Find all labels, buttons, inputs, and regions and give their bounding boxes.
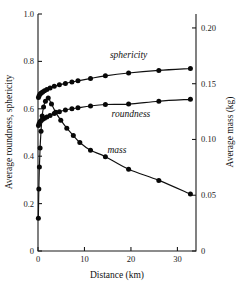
data-point-mass xyxy=(71,133,76,138)
chart-figure: 00.20.40.60.81.0 00.050.100.150.20 01020… xyxy=(0,0,243,285)
x-tick-label: 0 xyxy=(36,254,40,264)
x-axis-ticks: 0102030 xyxy=(36,247,182,264)
y-tick-label-left: 0.2 xyxy=(23,199,34,209)
data-point-mass xyxy=(49,102,54,107)
data-point-roundness xyxy=(103,102,108,107)
data-point-roundness xyxy=(156,99,161,104)
data-point-roundness xyxy=(63,107,68,112)
x-tick-label: 10 xyxy=(80,254,89,264)
data-point-sphericity xyxy=(103,73,108,78)
data-point-roundness xyxy=(75,105,80,110)
x-tick-label: 30 xyxy=(173,254,182,264)
data-point-sphericity xyxy=(156,68,161,73)
data-point-mass xyxy=(36,186,41,191)
data-point-mass xyxy=(36,216,41,221)
y-tick-label-right: 0.10 xyxy=(201,134,216,144)
data-point-sphericity xyxy=(63,81,68,86)
data-series-layer xyxy=(36,66,193,221)
y-tick-label-left: 0.8 xyxy=(23,56,34,66)
data-point-sphericity xyxy=(69,80,74,85)
data-point-sphericity xyxy=(126,71,131,76)
data-point-mass xyxy=(188,192,193,197)
y-tick-label-right: 0 xyxy=(201,246,205,256)
chart-plot-area: 00.20.40.60.81.0 00.050.100.150.20 01020… xyxy=(0,0,243,285)
y-tick-label-left: 0.4 xyxy=(23,151,34,161)
data-point-mass xyxy=(64,126,69,131)
data-point-roundness xyxy=(126,102,131,107)
x-tick-label: 20 xyxy=(127,254,136,264)
data-point-sphericity xyxy=(188,66,193,71)
data-point-sphericity xyxy=(88,76,93,81)
y-axis-title-left: Average roundness, sphericity xyxy=(4,74,14,189)
y-tick-label-right: 0.15 xyxy=(201,79,216,89)
data-point-mass xyxy=(39,129,44,134)
x-axis-title: Distance (km) xyxy=(90,270,144,281)
data-point-mass xyxy=(41,104,46,109)
data-point-mass xyxy=(77,140,82,145)
y-tick-label-right: 0.20 xyxy=(201,23,216,33)
series-label-roundness: roundness xyxy=(112,109,151,119)
data-point-sphericity xyxy=(57,82,62,87)
data-point-roundness xyxy=(69,106,74,111)
y-axis-title-right: Average mass (kg) xyxy=(225,96,236,167)
data-point-mass xyxy=(156,178,161,183)
data-point-mass xyxy=(40,113,45,118)
data-point-mass xyxy=(38,145,43,150)
data-point-sphericity xyxy=(75,78,80,83)
series-label-sphericity: sphericity xyxy=(110,50,148,60)
y-tick-label-left: 0 xyxy=(30,246,34,256)
data-point-mass xyxy=(58,118,63,123)
y-tick-label-left: 0.6 xyxy=(23,104,34,114)
data-point-mass xyxy=(88,148,93,153)
series-sphericity xyxy=(36,66,193,100)
y-tick-label-right: 0.05 xyxy=(201,190,216,200)
data-point-mass xyxy=(126,167,131,172)
data-point-mass xyxy=(53,110,58,115)
data-point-mass xyxy=(37,164,42,169)
data-point-roundness xyxy=(88,103,93,108)
data-point-sphericity xyxy=(52,84,57,89)
series-line-sphericity xyxy=(38,69,190,98)
data-point-roundness xyxy=(188,97,193,102)
y-tick-label-left: 1.0 xyxy=(23,9,34,19)
data-point-mass xyxy=(46,96,51,101)
data-point-mass xyxy=(103,154,108,159)
series-label-mass: mass xyxy=(107,145,126,155)
